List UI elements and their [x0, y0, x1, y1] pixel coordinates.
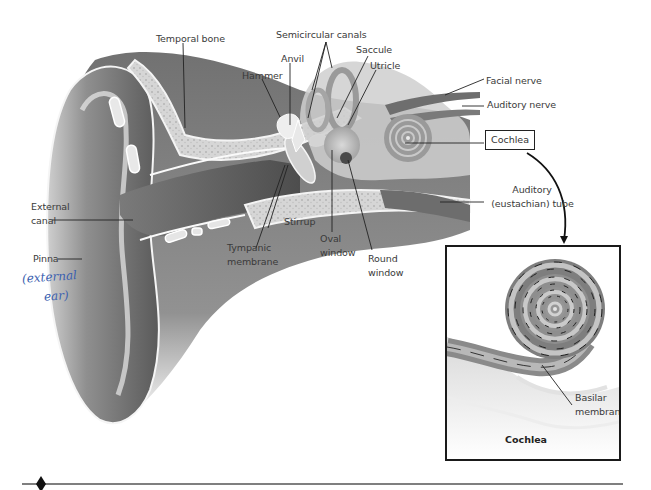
handwritten-note-line2: ear) [44, 288, 70, 305]
label-facial-nerve: Facial nerve [486, 75, 542, 87]
cochlea-inset-illustration [447, 247, 619, 459]
label-semicircular-canals: Semicircular canals [276, 29, 367, 41]
cochlea-spiral [384, 114, 432, 162]
label-anvil: Anvil [281, 53, 304, 65]
label-pinna: Pinna [33, 253, 59, 265]
cochlea-spiral-inset [505, 259, 605, 359]
inset-title: Cochlea [447, 434, 619, 445]
label-auditory-nerve: Auditory nerve [487, 99, 556, 111]
label-auditory-tube-2: (eustachian) tube [485, 198, 580, 210]
label-round-window-1: Round [368, 253, 398, 265]
label-basilar-1: Basilar [575, 392, 607, 404]
label-tympanic-2: membrane [227, 256, 278, 268]
label-oval-window-2: window [320, 247, 355, 259]
label-round-window-2: window [368, 267, 403, 279]
label-basilar-2: membrane [575, 406, 621, 418]
label-hammer: Hammer [242, 70, 283, 82]
cochlea-inset: Basilar membrane Cochlea [445, 245, 621, 461]
label-external-canal-2: canal [31, 215, 56, 227]
label-tympanic-1: Tympanic [227, 242, 271, 254]
label-utricle: Utricle [370, 60, 400, 72]
label-oval-window-1: Oval [320, 233, 341, 245]
label-external-canal-1: External [31, 201, 70, 213]
label-stirrup: Stirrup [284, 216, 315, 228]
label-auditory-tube-1: Auditory [497, 184, 567, 196]
label-saccule: Saccule [356, 44, 392, 56]
label-temporal-bone: Temporal bone [156, 33, 225, 45]
ear-anatomy-diagram: Temporal bone Semicircular canals Anvil … [0, 0, 651, 490]
label-cochlea-box: Cochlea [485, 130, 535, 150]
